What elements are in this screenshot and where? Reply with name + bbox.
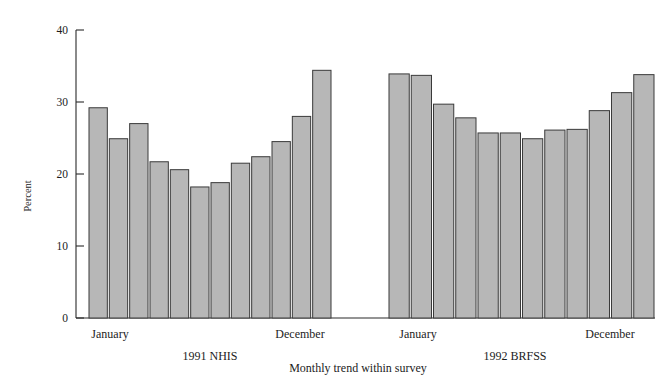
bar <box>109 139 127 318</box>
group1-name-label: 1991 NHIS <box>182 349 237 363</box>
bar <box>89 108 107 318</box>
bar <box>634 75 654 318</box>
bar <box>612 93 632 318</box>
bar <box>292 116 310 318</box>
bar <box>389 74 409 318</box>
bar <box>170 170 188 318</box>
group1-start-label: January <box>91 327 128 341</box>
bar <box>150 162 168 318</box>
bar <box>252 157 270 318</box>
y-tick-label-40: 40 <box>57 24 69 36</box>
group2-start-label: January <box>399 327 436 341</box>
bar <box>231 163 249 318</box>
bar <box>523 139 543 318</box>
group2-name-label: 1992 BRFSS <box>483 349 546 363</box>
group2-end-label: December <box>585 327 634 341</box>
bar <box>567 129 587 318</box>
bar <box>313 70 331 318</box>
y-tick-label-30: 30 <box>57 96 69 108</box>
bar <box>434 104 454 318</box>
bar <box>500 133 520 318</box>
y-tick-label-0: 0 <box>62 312 68 324</box>
chart-canvas: 40 30 20 10 0 Percent January December 1… <box>0 0 663 375</box>
bar <box>191 187 209 318</box>
bar <box>478 133 498 318</box>
group1-end-label: December <box>275 327 324 341</box>
bar <box>272 142 290 318</box>
bar <box>130 124 148 318</box>
y-tick-label-20: 20 <box>57 168 69 180</box>
bar <box>211 183 229 318</box>
bar-chart-figure: 40 30 20 10 0 Percent January December 1… <box>0 0 663 375</box>
y-tick-label-10: 10 <box>57 240 69 252</box>
bar <box>545 130 565 318</box>
bar <box>589 111 609 318</box>
bar <box>456 118 476 318</box>
bar <box>411 75 431 318</box>
x-axis-title: Monthly trend within survey <box>289 361 427 375</box>
y-axis-title: Percent <box>22 180 33 212</box>
